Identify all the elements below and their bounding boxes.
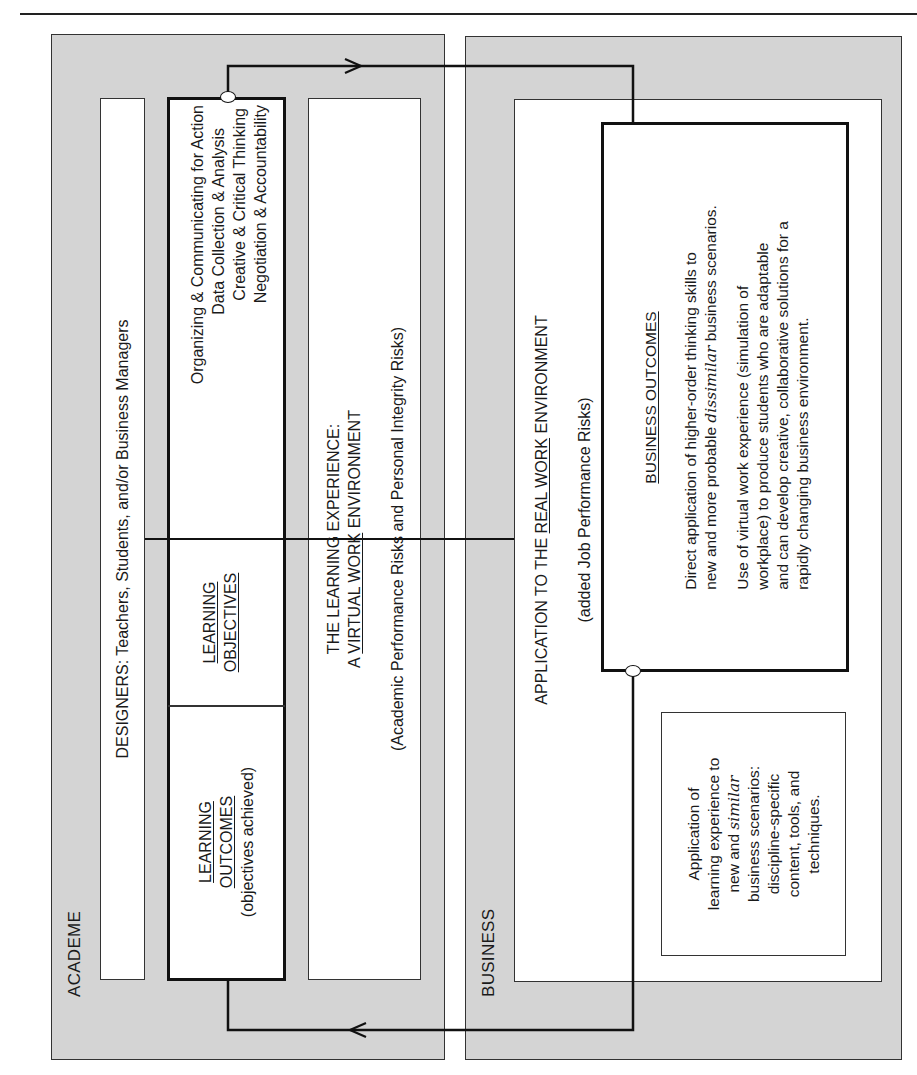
learning-outcomes: LEARNING OUTCOMES (objectives achieved) xyxy=(170,706,283,978)
designers-text: DESIGNERS: Teachers, Students, and/or Bu… xyxy=(101,98,144,980)
connector-knob-top xyxy=(220,91,236,103)
virtual-work-line: A VIRTUAL WORK ENVIRONMENT xyxy=(344,410,365,668)
business-outcomes-text: BUSINESS OUTCOMES Direct application of … xyxy=(612,125,842,670)
business-outcomes-body: Direct application of higher-order think… xyxy=(681,205,813,590)
similar-scenarios-text: Application of learning experience to ne… xyxy=(663,714,844,954)
objective-item: Organizing & Communicating for Action xyxy=(187,105,208,384)
real-work-text: APPLICATION TO THE REAL WORK ENVIRONMENT… xyxy=(528,230,598,790)
learning-objectives-list: Organizing & Communicating for Action Da… xyxy=(184,105,274,475)
real-work-heading: APPLICATION TO THE REAL WORK ENVIRONMENT xyxy=(531,315,552,704)
objective-item: Negotiation & Accountability xyxy=(250,105,271,303)
academe-label: ACADEME xyxy=(62,797,88,997)
learning-experience-text: THE LEARNING EXPERIENCE: A VIRTUAL WORK … xyxy=(310,98,420,980)
learning-objectives-title: LEARNING OBJECTIVES xyxy=(195,540,245,705)
objective-item: Data Collection & Analysis xyxy=(208,105,229,315)
objective-item: Creative & Critical Thinking xyxy=(229,105,250,301)
business-label: BUSINESS xyxy=(476,797,502,997)
business-outcomes-title: BUSINESS OUTCOMES xyxy=(641,311,661,483)
